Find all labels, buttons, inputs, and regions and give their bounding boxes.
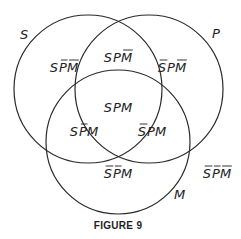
- region-label-m-only: SPM: [104, 166, 133, 181]
- region-letter: S: [104, 50, 112, 65]
- region-label-sm: SPM: [70, 124, 99, 139]
- region-letter: M: [67, 60, 78, 75]
- circle-p: [75, 15, 223, 163]
- region-letter: P: [113, 50, 121, 65]
- region-letter: S: [70, 124, 78, 139]
- region-letter: P: [113, 100, 121, 115]
- region-label-sp: SPM: [104, 50, 133, 65]
- region-letter: P: [167, 60, 175, 75]
- region-letter: P: [113, 166, 121, 181]
- region-label-p-only: SPM: [158, 60, 187, 75]
- figure-caption: FIGURE 9: [94, 220, 143, 231]
- region-letter: S: [203, 166, 211, 181]
- region-letter: M: [121, 100, 132, 115]
- region-letter: S: [104, 166, 112, 181]
- region-letter: M: [175, 60, 186, 75]
- region-letter: M: [155, 124, 166, 139]
- region-label-pm: SPM: [138, 124, 167, 139]
- region-letter: M: [220, 166, 231, 181]
- region-label-none: SPM: [203, 166, 232, 181]
- region-letter: S: [158, 60, 166, 75]
- region-label-s-only: SPM: [50, 60, 79, 75]
- circle-s: [14, 15, 162, 163]
- region-letter: P: [79, 124, 87, 139]
- region-letter: P: [212, 166, 220, 181]
- region-letter: M: [87, 124, 98, 139]
- set-label-p: P: [212, 26, 220, 41]
- region-letter: S: [138, 124, 146, 139]
- set-label-m: M: [174, 187, 185, 202]
- region-letter: S: [50, 60, 58, 75]
- region-letter: S: [104, 100, 112, 115]
- circle-m: [46, 70, 190, 214]
- venn-diagram: S P M SPMSPMSPMSPMSPMSPMSPMSPM FIGURE 9: [0, 0, 241, 239]
- region-label-spm: SPM: [104, 100, 133, 115]
- region-letter: M: [121, 166, 132, 181]
- region-letter: P: [59, 60, 67, 75]
- region-letter: M: [121, 50, 132, 65]
- region-letter: P: [147, 124, 155, 139]
- set-label-s: S: [20, 27, 28, 42]
